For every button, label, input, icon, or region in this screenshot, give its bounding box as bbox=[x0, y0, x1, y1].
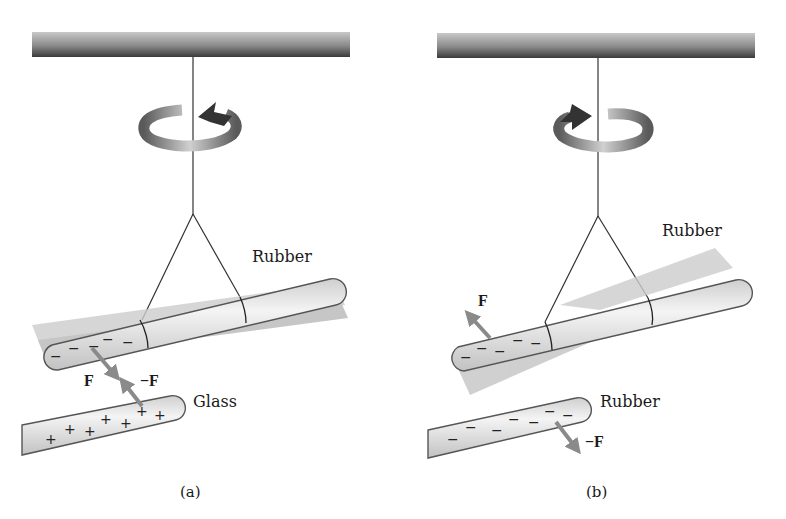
ceiling-bar bbox=[32, 32, 350, 57]
label-rubber-b-bottom: Rubber bbox=[600, 392, 660, 411]
charge-minus: − bbox=[460, 349, 472, 365]
charge-plus: + bbox=[154, 407, 166, 423]
charge-minus: − bbox=[476, 340, 488, 356]
charge-plus: + bbox=[45, 431, 57, 447]
force-label-f: F bbox=[478, 292, 488, 309]
caption-b: (b) bbox=[586, 483, 607, 501]
charge-plus: + bbox=[100, 411, 112, 427]
charge-plus: + bbox=[84, 423, 96, 439]
charge-minus: − bbox=[68, 340, 80, 356]
charge-minus: − bbox=[122, 334, 134, 350]
charge-plus: + bbox=[120, 415, 132, 431]
charge-minus: − bbox=[50, 348, 62, 364]
charge-minus: − bbox=[562, 407, 574, 423]
rotation-arrow-ccw-icon bbox=[144, 102, 236, 146]
fixed-rubber-rod: − − − − − − − bbox=[428, 398, 591, 458]
label-rubber-b-top: Rubber bbox=[662, 221, 722, 240]
charge-minus: − bbox=[102, 331, 114, 347]
label-rubber-a: Rubber bbox=[252, 247, 312, 266]
label-glass: Glass bbox=[193, 392, 237, 411]
charge-minus: − bbox=[465, 419, 477, 435]
charge-minus: − bbox=[447, 431, 459, 447]
force-label-f: F bbox=[84, 372, 94, 389]
charge-minus: − bbox=[528, 414, 540, 430]
force-arrow-icon bbox=[470, 316, 490, 338]
ceiling-bar bbox=[437, 33, 755, 58]
caption-a: (a) bbox=[180, 483, 201, 501]
charge-minus: − bbox=[508, 411, 520, 427]
charge-minus: − bbox=[494, 343, 506, 359]
charge-minus: − bbox=[530, 335, 542, 351]
charge-minus: − bbox=[512, 332, 524, 348]
panel-b: − − − − − Rubber − − − − − − − Rubber F … bbox=[428, 33, 755, 501]
charge-plus: + bbox=[64, 421, 76, 437]
fixed-glass-rod: + + + + + + + bbox=[22, 396, 185, 455]
charge-minus: − bbox=[544, 403, 556, 419]
charge-minus: − bbox=[491, 422, 503, 438]
electrostatic-rods-figure: − − − − − Rubber + + + + + + + Glass F −… bbox=[0, 0, 786, 519]
rotation-arrow-cw-icon bbox=[559, 104, 648, 147]
force-label-neg-f: −F bbox=[140, 372, 159, 389]
panel-a: − − − − − Rubber + + + + + + + Glass F −… bbox=[22, 32, 350, 501]
force-label-neg-f: −F bbox=[585, 433, 604, 450]
